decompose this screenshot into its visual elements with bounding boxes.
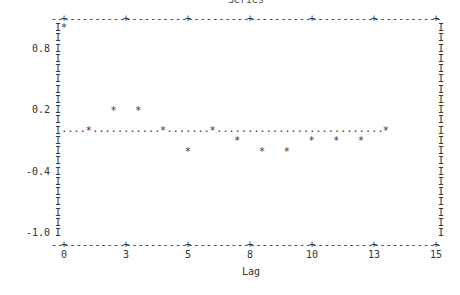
data-point-star: * (61, 23, 67, 33)
reference-dot: . (235, 124, 241, 134)
y-tick-label: -0.4 (26, 167, 50, 177)
reference-dot: . (229, 124, 235, 134)
bottom-border: - (82, 240, 88, 250)
bottom-border: - (107, 240, 113, 250)
reference-dot: . (173, 124, 179, 134)
bottom-border: - (404, 240, 410, 250)
top-border: - (342, 14, 348, 24)
bottom-border: - (274, 240, 280, 250)
top-border: - (156, 14, 162, 24)
right-border: I (438, 197, 444, 207)
acf-plot: Series Lag -----------------------------… (0, 0, 460, 295)
reference-dot: . (148, 124, 154, 134)
axis-tick-mark: + (185, 14, 191, 24)
reference-dot: . (260, 124, 266, 134)
reference-dot: . (117, 124, 123, 134)
top-border: - (330, 14, 336, 24)
top-border: - (299, 14, 305, 24)
data-point-star: * (259, 147, 265, 157)
top-border: - (194, 14, 200, 24)
bottom-border: - (225, 240, 231, 250)
left-border: I (55, 74, 61, 84)
bottom-border: - (212, 240, 218, 250)
x-tick-label: 8 (247, 250, 253, 260)
bottom-border: - (423, 240, 429, 250)
bottom-border: - (101, 240, 107, 250)
reference-dot: . (328, 124, 334, 134)
top-border: - (212, 14, 218, 24)
top-border: - (113, 14, 119, 24)
reference-dot: . (315, 124, 321, 134)
x-tick-label: 10 (306, 250, 318, 260)
y-tick-label: 0.2 (32, 105, 50, 115)
top-border: - (417, 14, 423, 24)
top-border: - (274, 14, 280, 24)
x-tick-label: 13 (368, 250, 380, 260)
reference-dot: . (371, 124, 377, 134)
top-border: - (280, 14, 286, 24)
top-border: - (411, 14, 417, 24)
top-border: - (138, 14, 144, 24)
bottom-border: - (417, 240, 423, 250)
top-border: - (349, 14, 355, 24)
bottom-border: - (51, 240, 57, 250)
axis-tick-mark: + (309, 14, 315, 24)
bottom-border: - (256, 240, 262, 250)
left-border: I (55, 115, 61, 125)
axis-tick-mark: + (371, 14, 377, 24)
bottom-border: - (386, 240, 392, 250)
top-border: - (163, 14, 169, 24)
reference-dot: . (216, 124, 222, 134)
left-border: I (55, 197, 61, 207)
reference-dot: . (291, 124, 297, 134)
top-border: - (82, 14, 88, 24)
top-border: - (150, 14, 156, 24)
reference-dot: . (222, 124, 228, 134)
bottom-border: - (318, 240, 324, 250)
right-border: I (438, 228, 444, 238)
bottom-border: - (200, 240, 206, 250)
data-point-star: * (284, 147, 290, 157)
reference-dot: . (303, 124, 309, 134)
axis-tick-mark: + (123, 14, 129, 24)
reference-dot: . (266, 124, 272, 134)
x-axis-label: Lag (242, 266, 260, 277)
reference-dot: . (123, 124, 129, 134)
bottom-border: - (324, 240, 330, 250)
right-border: I (438, 115, 444, 125)
reference-dot: . (334, 124, 340, 134)
reference-dot: . (322, 124, 328, 134)
data-point-star: * (210, 126, 216, 136)
reference-dot: . (253, 124, 259, 134)
y-tick-label: 0.8 (32, 44, 50, 54)
top-border: - (225, 14, 231, 24)
left-border: I (55, 156, 61, 166)
top-border: - (287, 14, 293, 24)
top-border: - (404, 14, 410, 24)
x-tick-label: 15 (430, 250, 442, 260)
top-border: - (101, 14, 107, 24)
top-border: - (132, 14, 138, 24)
top-border: - (169, 14, 175, 24)
left-border: I (55, 228, 61, 238)
top-border: - (218, 14, 224, 24)
reference-dot: . (346, 124, 352, 134)
data-point-star: * (135, 106, 141, 116)
data-point-star: * (86, 126, 92, 136)
bottom-border: - (392, 240, 398, 250)
right-border: I (438, 74, 444, 84)
bottom-border: - (138, 240, 144, 250)
right-border: I (438, 156, 444, 166)
reference-dot: . (359, 124, 365, 134)
bottom-border: - (268, 240, 274, 250)
reference-dot: . (74, 124, 80, 134)
top-border: - (392, 14, 398, 24)
bottom-border: - (70, 240, 76, 250)
bottom-border: - (398, 240, 404, 250)
reference-dot: . (111, 124, 117, 134)
reference-dot: . (92, 124, 98, 134)
x-tick-label: 5 (185, 250, 191, 260)
x-tick-label: 0 (61, 250, 67, 260)
reference-dot: . (365, 124, 371, 134)
bottom-border: - (361, 240, 367, 250)
